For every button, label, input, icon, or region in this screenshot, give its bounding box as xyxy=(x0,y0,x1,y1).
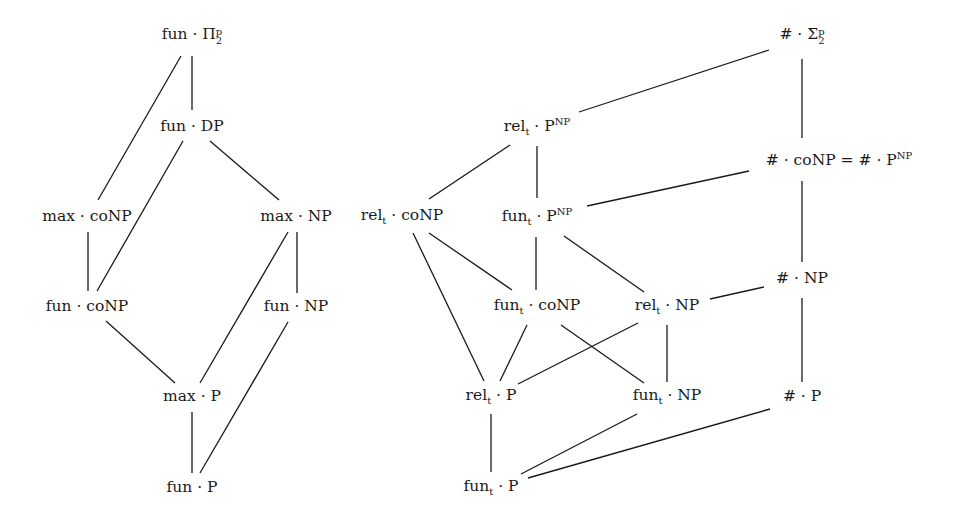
node-class-subscript: 2 xyxy=(216,36,222,45)
node-class: P xyxy=(546,207,556,225)
node-max_P: max · P xyxy=(163,389,221,405)
node-operator: · xyxy=(796,387,811,405)
node-base: max xyxy=(42,207,75,225)
node-class: NP xyxy=(804,269,828,287)
node-funt_PNP: funt · PNP xyxy=(502,207,572,227)
edge-relt_NP-relt_P xyxy=(518,323,638,384)
node-operator: · xyxy=(523,296,538,314)
node-base: fun xyxy=(46,297,72,315)
node-fun_NP: fun · NP xyxy=(264,299,328,315)
node-operator: · xyxy=(529,117,544,135)
edge-fun_DP-max_NP xyxy=(210,141,279,200)
node-base: # xyxy=(783,387,796,405)
node-operator: · xyxy=(187,25,202,43)
node-funt_coNP: funt · coNP xyxy=(494,298,581,316)
node-class: P xyxy=(211,387,221,405)
edge-relt_NP-sharp_NP xyxy=(710,287,764,299)
edge-relt_coNP-relt_P xyxy=(413,233,484,381)
node-operator: · xyxy=(186,117,201,135)
edge-fun_coNP-max_P xyxy=(106,321,175,383)
edge-funt_NP-funt_P xyxy=(521,414,637,474)
node-funt_P: funt · P xyxy=(464,479,519,497)
node-class: NP xyxy=(304,297,328,315)
node-operator: · xyxy=(532,207,547,225)
node-base: # xyxy=(766,151,779,169)
complexity-hasse-diagram: fun · Πp2fun · DPmax · coNPmax · NPfun ·… xyxy=(0,0,964,524)
node-class-superscript: NP xyxy=(557,206,572,217)
node-relt_P: relt · P xyxy=(466,388,517,406)
edge-relt_PNP-relt_coNP xyxy=(429,145,510,199)
edge-funt_coNP-funt_NP xyxy=(561,325,644,383)
node-class-subsup: p2 xyxy=(216,27,222,45)
node-fun_DP: fun · DP xyxy=(160,119,223,135)
node-operator: · xyxy=(660,296,675,314)
node-class: P xyxy=(508,477,518,495)
node-base: # xyxy=(776,269,789,287)
node-relt_coNP: relt · coNP xyxy=(361,208,443,226)
node-funt_NP: funt · NP xyxy=(633,388,702,406)
node-operator: · xyxy=(491,386,506,404)
node-fun_coNP: fun · coNP xyxy=(46,299,129,315)
node-operator: · xyxy=(493,477,508,495)
node-equality-superscript: NP xyxy=(897,150,912,161)
edge-relt_PNP-sharp_Sigma2p xyxy=(579,50,769,112)
node-sharp_P: # · P xyxy=(783,389,821,405)
node-base: rel xyxy=(504,117,526,135)
edge-funt_PNP-relt_NP xyxy=(564,236,644,292)
node-base: rel xyxy=(361,206,383,224)
node-class: coNP xyxy=(401,206,443,224)
node-base: fun xyxy=(264,297,290,315)
node-operator: · xyxy=(192,478,207,496)
node-class: P xyxy=(506,386,516,404)
node-class: coNP xyxy=(90,207,132,225)
node-operator: · xyxy=(789,269,804,287)
node-class: NP xyxy=(677,386,701,404)
node-operator: · xyxy=(792,25,807,43)
node-relt_NP: relt · NP xyxy=(635,298,699,316)
edge-sharp_P-funt_P xyxy=(528,409,770,478)
node-class: Σ xyxy=(807,25,818,43)
node-class: P xyxy=(811,387,821,405)
node-class: coNP xyxy=(86,297,128,315)
node-base: max xyxy=(260,207,293,225)
node-class-subsup: p2 xyxy=(818,27,824,45)
node-operator: · xyxy=(293,207,308,225)
node-class: NP xyxy=(308,207,332,225)
node-class: coNP xyxy=(794,151,836,169)
node-class: Π xyxy=(202,25,216,43)
edges-layer xyxy=(0,0,964,524)
node-class-subscript: 2 xyxy=(818,36,824,45)
node-class: NP xyxy=(675,296,699,314)
edge-funt_PNP-sharp_coNP_eq xyxy=(587,171,749,206)
node-sharp_coNP_eq: # · coNP = # · PNP xyxy=(766,151,912,169)
node-base: fun xyxy=(160,117,186,135)
node-fun_P: fun · P xyxy=(167,480,218,496)
node-base: fun xyxy=(494,296,520,314)
node-base: fun xyxy=(633,386,659,404)
node-class: P xyxy=(544,117,554,135)
node-base: rel xyxy=(635,296,657,314)
node-base: # xyxy=(779,25,792,43)
edge-relt_coNP-funt_coNP xyxy=(429,233,512,290)
node-base: rel xyxy=(466,386,488,404)
node-fun_Pi2p: fun · Πp2 xyxy=(162,27,222,45)
node-operator: · xyxy=(779,151,794,169)
node-operator: · xyxy=(71,297,86,315)
node-base: fun xyxy=(464,477,490,495)
node-base: fun xyxy=(167,478,193,496)
node-sharp_NP: # · NP xyxy=(776,271,828,287)
node-max_coNP: max · coNP xyxy=(42,209,131,225)
node-operator: · xyxy=(662,386,677,404)
node-relt_PNP: relt · PNP xyxy=(504,117,570,137)
edge-funt_coNP-relt_P xyxy=(500,325,527,381)
node-max_NP: max · NP xyxy=(260,209,331,225)
node-base: max xyxy=(163,387,196,405)
node-equality: = # · P xyxy=(836,151,897,169)
node-operator: · xyxy=(196,387,211,405)
node-base: fun xyxy=(162,25,188,43)
node-class: P xyxy=(207,478,217,496)
node-operator: · xyxy=(386,206,401,224)
node-class: DP xyxy=(201,117,224,135)
node-operator: · xyxy=(289,297,304,315)
node-class: coNP xyxy=(538,296,580,314)
